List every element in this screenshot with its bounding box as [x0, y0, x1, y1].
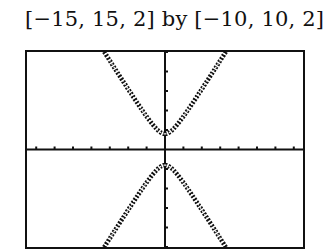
window-caption: [−15, 15, 2] by [−10, 10, 2] — [25, 7, 325, 31]
pixel-texture — [165, 52, 227, 134]
pixel-texture — [103, 52, 165, 134]
pixel-texture — [103, 165, 165, 247]
pixel-texture — [165, 165, 227, 247]
calculator-screen — [25, 50, 305, 249]
hyperbola-plot — [27, 52, 303, 247]
